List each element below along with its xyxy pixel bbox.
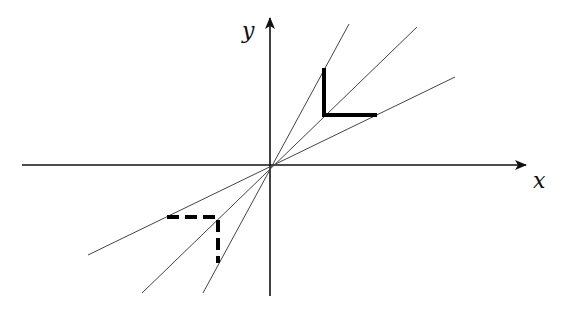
lines-through-origin xyxy=(88,24,455,293)
steep-line xyxy=(203,24,349,293)
middle-line xyxy=(142,27,417,293)
x-axis-label: x xyxy=(533,168,546,193)
dashed-corner-shape xyxy=(167,217,218,263)
coordinate-diagram: x y xyxy=(0,0,562,314)
axes: x y xyxy=(22,18,546,296)
shallow-line xyxy=(88,77,455,255)
y-axis-label: y xyxy=(241,18,255,43)
